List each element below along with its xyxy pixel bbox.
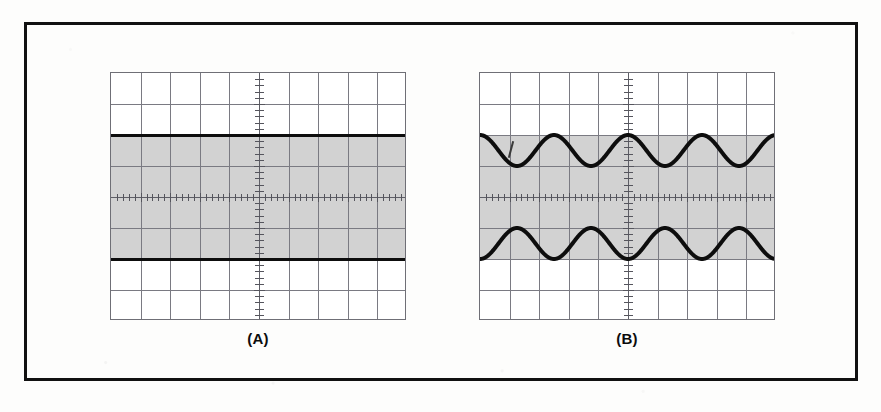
vertical-axis-minor-tick	[255, 265, 264, 266]
horizontal-axis-minor-tick	[342, 194, 343, 201]
vertical-axis-minor-tick	[255, 85, 264, 86]
vertical-axis-minor-tick	[255, 141, 264, 142]
horizontal-axis-minor-tick	[235, 194, 236, 201]
vertical-axis-minor-tick	[255, 178, 264, 179]
vertical-axis-minor-tick	[254, 290, 265, 291]
horizontal-axis-minor-tick	[277, 194, 278, 201]
horizontal-axis-minor-tick	[371, 194, 372, 201]
panel-b-caption: (B)	[479, 330, 775, 347]
horizontal-axis-minor-tick	[348, 193, 349, 202]
vertical-axis-minor-tick	[255, 116, 264, 117]
trace-upper-envelope	[111, 134, 405, 137]
horizontal-axis-minor-tick	[152, 194, 153, 201]
vertical-axis-minor-tick	[255, 98, 264, 99]
trace-lower-envelope	[111, 258, 405, 261]
vertical-axis-minor-tick	[254, 104, 265, 105]
vertical-axis-minor-tick	[255, 284, 264, 285]
horizontal-axis-minor-tick	[401, 194, 402, 201]
horizontal-axis-minor-tick	[158, 194, 159, 201]
trace-lower-envelope	[480, 73, 775, 320]
horizontal-axis-minor-tick	[271, 194, 272, 201]
horizontal-axis-minor-tick	[295, 194, 296, 201]
horizontal-axis-minor-tick	[129, 194, 130, 201]
vertical-axis-minor-tick	[255, 129, 264, 130]
horizontal-axis-minor-tick	[389, 194, 390, 201]
horizontal-axis-minor-tick	[366, 194, 367, 201]
vertical-axis-minor-tick	[255, 309, 264, 310]
panel-a: (A)	[110, 72, 406, 320]
oscilloscope-screen-b	[479, 72, 775, 320]
horizontal-axis-minor-tick	[312, 194, 313, 201]
vertical-axis-minor-tick	[255, 240, 264, 241]
panel-b: (B)	[479, 72, 775, 320]
vertical-axis-minor-tick	[255, 110, 264, 111]
vertical-axis-minor-tick	[255, 296, 264, 297]
horizontal-axis-minor-tick	[117, 194, 118, 201]
horizontal-axis-minor-tick	[135, 194, 136, 201]
horizontal-axis-minor-tick	[164, 194, 165, 201]
horizontal-axis-minor-tick	[147, 194, 148, 201]
horizontal-axis-minor-tick	[395, 194, 396, 201]
horizontal-axis-minor-tick	[194, 194, 195, 201]
vertical-axis-minor-tick	[255, 247, 264, 248]
vertical-axis-minor-tick	[255, 222, 264, 223]
horizontal-axis-minor-tick	[330, 194, 331, 201]
horizontal-axis-minor-tick	[265, 194, 266, 201]
sine-path	[480, 228, 775, 259]
vertical-axis-minor-tick	[255, 209, 264, 210]
vertical-axis-minor-tick	[255, 234, 264, 235]
horizontal-axis-minor-tick	[324, 194, 325, 201]
horizontal-axis-minor-tick	[247, 194, 248, 201]
vertical-axis-minor-tick	[255, 154, 264, 155]
vertical-axis-minor-tick	[255, 253, 264, 254]
horizontal-axis-minor-tick	[360, 194, 361, 201]
panel-a-caption: (A)	[110, 330, 406, 347]
horizontal-axis-minor-tick	[218, 194, 219, 201]
horizontal-axis-minor-tick	[336, 194, 337, 201]
figure-page: (A) (B)	[0, 0, 881, 412]
horizontal-axis-minor-tick	[229, 193, 230, 202]
vertical-axis-minor-tick	[255, 147, 264, 148]
horizontal-axis-minor-tick	[318, 193, 319, 202]
horizontal-axis-minor-tick	[182, 194, 183, 201]
horizontal-axis-minor-tick	[223, 194, 224, 201]
horizontal-axis-minor-tick	[170, 193, 171, 202]
horizontal-axis-minor-tick	[383, 194, 384, 201]
horizontal-axis-minor-tick	[283, 194, 284, 201]
vertical-axis-minor-tick	[255, 271, 264, 272]
horizontal-axis-minor-tick	[123, 194, 124, 201]
horizontal-axis-minor-tick	[206, 194, 207, 201]
vertical-axis-minor-tick	[255, 203, 264, 204]
vertical-axis-minor-tick	[255, 185, 264, 186]
vertical-axis-minor-tick	[255, 79, 264, 80]
vertical-axis-minor-tick	[254, 228, 265, 229]
horizontal-axis-minor-tick	[212, 194, 213, 201]
horizontal-axis-minor-tick	[241, 194, 242, 201]
vertical-axis-minor-tick	[255, 278, 264, 279]
horizontal-axis-minor-tick	[354, 194, 355, 201]
horizontal-axis-minor-tick	[306, 194, 307, 201]
horizontal-axis-minor-tick	[289, 193, 290, 202]
vertical-axis-minor-tick	[255, 92, 264, 93]
vertical-axis-minor-tick	[254, 197, 265, 198]
vertical-axis-minor-tick	[255, 302, 264, 303]
vertical-axis-minor-tick	[255, 123, 264, 124]
horizontal-axis-minor-tick	[141, 193, 142, 202]
horizontal-axis-minor-tick	[176, 194, 177, 201]
oscilloscope-screen-a	[110, 72, 406, 320]
vertical-axis-minor-tick	[255, 172, 264, 173]
vertical-axis-minor-tick	[255, 216, 264, 217]
horizontal-axis-minor-tick	[200, 193, 201, 202]
horizontal-axis-minor-tick	[300, 194, 301, 201]
horizontal-axis-minor-tick	[188, 194, 189, 201]
vertical-axis-minor-tick	[255, 160, 264, 161]
vertical-axis-minor-tick	[255, 191, 264, 192]
vertical-axis-minor-tick	[255, 315, 264, 316]
vertical-axis-minor-tick	[254, 166, 265, 167]
horizontal-axis-minor-tick	[377, 193, 378, 202]
